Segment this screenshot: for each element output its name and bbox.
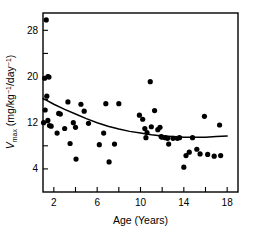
data-point [45, 118, 50, 123]
data-point [44, 17, 49, 22]
data-point [177, 135, 182, 140]
data-point [46, 74, 51, 79]
x-axis-title: Age (Years) [113, 214, 168, 226]
data-point [62, 126, 67, 131]
data-point [116, 101, 121, 106]
data-point [194, 147, 199, 152]
plot-frame [43, 13, 238, 192]
x-tick-labels: 26101418 [51, 197, 233, 208]
data-point [202, 114, 207, 119]
y-axis-unit-open: (mg/kg [4, 94, 16, 129]
data-point [166, 141, 171, 146]
chart-figure: 26101418 4122028 Age (Years) Vmax (mg/kg… [0, 0, 253, 233]
data-point [181, 165, 186, 170]
data-point [137, 113, 142, 118]
x-tick-label-6: 6 [94, 197, 100, 208]
y-axis-sup-2: −1 [5, 58, 12, 66]
data-point [197, 151, 202, 156]
data-point [58, 111, 63, 116]
data-point [54, 131, 59, 136]
y-tick-label-28: 28 [27, 25, 39, 36]
data-point [157, 125, 162, 130]
data-point [140, 117, 145, 122]
y-tick-labels: 4122028 [27, 25, 39, 175]
data-point [78, 102, 83, 107]
x-tick-label-2: 2 [51, 197, 57, 208]
data-point [152, 108, 157, 113]
data-point [71, 120, 76, 125]
data-point [143, 135, 148, 140]
data-point [101, 131, 106, 136]
data-point [49, 124, 54, 129]
data-point [149, 124, 154, 129]
data-point [148, 79, 153, 84]
y-axis-sup-1: −1 [5, 86, 12, 94]
y-axis-unit-close: ) [4, 55, 16, 59]
x-tick-label-14: 14 [178, 197, 190, 208]
data-points-group [41, 17, 223, 169]
data-point [44, 94, 49, 99]
data-point [67, 141, 72, 146]
y-tick-label-20: 20 [27, 71, 39, 82]
data-point [106, 159, 111, 164]
trend-curve [43, 98, 227, 137]
y-tick-label-12: 12 [27, 117, 39, 128]
y-axis-subscript: max [11, 129, 18, 143]
x-tick-label-18: 18 [222, 197, 234, 208]
data-point [73, 156, 78, 161]
data-point [217, 122, 222, 127]
data-point [205, 152, 210, 157]
data-point [103, 101, 108, 106]
data-point [187, 150, 192, 155]
data-point [86, 121, 91, 126]
data-point [218, 153, 223, 158]
data-point [73, 125, 78, 130]
data-point [65, 99, 70, 104]
y-axis-title: Vmax (mg/kg−1/day−1) [4, 55, 18, 150]
data-point [190, 135, 195, 140]
data-point [82, 109, 87, 114]
scatter-plot: 26101418 4122028 Age (Years) Vmax (mg/kg… [0, 0, 253, 233]
y-axis-unit-mid: /day [4, 65, 16, 86]
data-point [144, 130, 149, 135]
data-point [212, 154, 217, 159]
y-tick-label-4: 4 [32, 163, 38, 174]
x-tick-label-10: 10 [135, 197, 147, 208]
data-point [112, 141, 117, 146]
data-point [97, 142, 102, 147]
data-point [165, 136, 170, 141]
data-point [43, 107, 48, 112]
